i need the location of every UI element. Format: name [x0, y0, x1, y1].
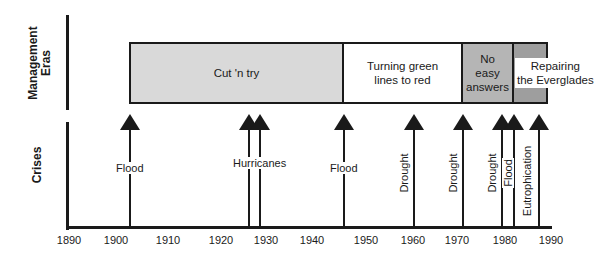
crisis-label-drought-1972: Drought	[447, 153, 459, 193]
crisis-label-flood-1903: Flood	[116, 162, 144, 174]
crises-axis-line	[66, 122, 69, 230]
crisis-line-1926	[248, 126, 250, 228]
tick-1940: 1940	[300, 234, 324, 246]
arrow-up-icon	[120, 114, 140, 130]
tick-1900: 1900	[104, 234, 128, 246]
crisis-label-drought-1980: Drought	[486, 153, 498, 193]
tick-1990: 1990	[539, 234, 563, 246]
tick-1920: 1920	[209, 234, 233, 246]
management-label-line2: Eras	[40, 23, 53, 103]
crisis-line-1928	[259, 126, 261, 228]
crisis-label-flood-1947: Flood	[330, 162, 358, 174]
crisis-label-eutrophication: Eutrophication	[521, 144, 533, 218]
crisis-line-1960	[413, 126, 415, 228]
arrow-up-icon	[404, 114, 424, 130]
arrow-up-icon	[529, 114, 549, 130]
crisis-label-flood-1983: Flood	[502, 158, 514, 188]
crisis-line-1947	[343, 126, 345, 228]
era-label: Noeasyanswers	[466, 52, 509, 94]
era-label: Cut 'n try	[214, 66, 260, 80]
tick-1910: 1910	[156, 234, 180, 246]
management-axis-line	[66, 15, 69, 110]
crisis-line-1972	[462, 126, 464, 228]
time-axis-line	[66, 226, 552, 229]
arrow-up-icon	[453, 114, 473, 130]
crisis-label-drought-1960: Drought	[398, 153, 410, 193]
management-eras-label: Management Eras	[27, 23, 57, 103]
era-cut-n-try: Cut 'n try	[129, 42, 344, 104]
era-label: Turning greenlines to red	[367, 59, 438, 87]
tick-1970: 1970	[445, 234, 469, 246]
crisis-label-hurricanes: Hurricanes	[233, 157, 286, 169]
era-turning-green-lines-to-red: Turning greenlines to red	[344, 42, 463, 104]
era-label-repairing: Repairingthe Everglades	[515, 58, 596, 88]
arrow-up-icon	[250, 114, 270, 130]
crisis-line-1988	[538, 126, 540, 228]
era-no-easy-answers: Noeasyanswers	[463, 42, 514, 104]
tick-1890: 1890	[57, 234, 81, 246]
crises-label: Crises	[31, 140, 45, 190]
tick-1930: 1930	[254, 234, 278, 246]
tick-1980: 1980	[493, 234, 517, 246]
tick-1960: 1960	[401, 234, 425, 246]
tick-1950: 1950	[354, 234, 378, 246]
crisis-line-1903	[129, 126, 131, 228]
arrow-up-icon	[504, 114, 524, 130]
arrow-up-icon	[334, 114, 354, 130]
